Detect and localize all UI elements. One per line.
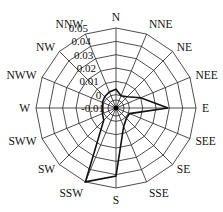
direction-label-sse: SSE <box>149 187 169 199</box>
center-dot <box>114 106 119 111</box>
direction-label-ne: NE <box>177 41 192 53</box>
grid-spoke <box>116 108 173 165</box>
direction-label-nnw: NNW <box>56 18 84 30</box>
radial-tick-label: 0.01 <box>79 75 98 87</box>
direction-label-sww: SWW <box>8 135 36 147</box>
direction-label-nee: NEE <box>195 69 217 81</box>
grid-spoke <box>59 108 116 165</box>
direction-label-s: S <box>113 194 119 206</box>
radial-tick-label: 0.02 <box>77 62 96 74</box>
direction-label-se: SE <box>177 163 190 175</box>
radial-tick-label: 0.04 <box>71 35 91 47</box>
direction-label-nww: NWW <box>7 69 37 81</box>
direction-label-nne: NNE <box>149 18 173 30</box>
radial-tick-label: -0.01 <box>81 102 104 114</box>
radial-tick-labels: -0.0100.010.020.030.040.05 <box>69 22 104 114</box>
direction-label-n: N <box>112 11 121 23</box>
wind-rose-chart: -0.0100.010.020.030.040.05 NNNENENEEESEE… <box>0 0 223 212</box>
radar-plot: -0.0100.010.020.030.040.05 NNNENENEEESEE… <box>0 0 223 212</box>
direction-label-ssw: SSW <box>59 187 83 199</box>
direction-label-sw: SW <box>38 163 55 175</box>
polar-grid <box>36 28 196 188</box>
radial-tick-label: 0 <box>96 89 102 101</box>
direction-label-nw: NW <box>36 41 55 53</box>
direction-label-see: SEE <box>195 135 215 147</box>
direction-label-e: E <box>202 102 209 114</box>
direction-label-w: W <box>19 102 30 114</box>
radial-tick-label: 0.03 <box>74 49 94 61</box>
